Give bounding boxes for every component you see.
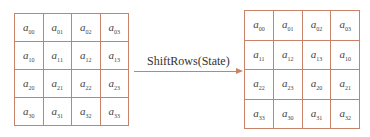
cell-index: 03 <box>114 29 120 35</box>
cell-index: 23 <box>287 85 293 91</box>
matrix-row: a20a21a22a23 <box>15 70 129 98</box>
cell-index: 03 <box>345 26 351 32</box>
matrix-cell: a33 <box>245 99 274 129</box>
matrix-cell: a02 <box>72 14 101 42</box>
cell-index: 11 <box>57 57 63 63</box>
cell-index: 10 <box>345 56 351 62</box>
cell-index: 30 <box>287 115 293 121</box>
matrix-row: a00a01a02a03 <box>245 11 360 41</box>
cell-index: 22 <box>86 85 92 91</box>
matrix-cell: a30 <box>15 98 44 126</box>
matrix-cell: a32 <box>72 98 101 126</box>
cell-index: 30 <box>29 113 35 119</box>
cell-index: 01 <box>287 26 293 32</box>
matrix-cell: a22 <box>245 70 274 100</box>
matrix-cell: a11 <box>245 40 274 70</box>
cell-index: 31 <box>316 115 322 121</box>
operation-label: ShiftRows(State) <box>147 54 230 69</box>
cell-index: 21 <box>345 85 351 91</box>
output-state-body: a00a01a02a03a11a12a13a10a22a23a20a21a33a… <box>245 11 360 129</box>
matrix-cell: a13 <box>302 40 331 70</box>
cell-index: 02 <box>86 29 92 35</box>
cell-index: 01 <box>57 29 63 35</box>
matrix-cell: a00 <box>15 14 44 42</box>
matrix-cell: a31 <box>302 99 331 129</box>
cell-index: 31 <box>57 113 63 119</box>
cell-index: 33 <box>114 113 120 119</box>
cell-index: 12 <box>287 56 293 62</box>
cell-index: 20 <box>29 85 35 91</box>
arrow-line <box>134 71 238 72</box>
cell-index: 13 <box>114 57 120 63</box>
matrix-cell: a03 <box>331 11 360 41</box>
cell-index: 00 <box>259 26 265 32</box>
matrix-cell: a32 <box>331 99 360 129</box>
matrix-cell: a30 <box>273 99 302 129</box>
cell-index: 23 <box>114 85 120 91</box>
matrix-cell: a01 <box>273 11 302 41</box>
matrix-cell: a21 <box>331 70 360 100</box>
matrix-cell: a22 <box>72 70 101 98</box>
matrix-cell: a10 <box>331 40 360 70</box>
output-state-matrix: a00a01a02a03a11a12a13a10a22a23a20a21a33a… <box>244 10 360 129</box>
matrix-cell: a21 <box>43 70 72 98</box>
matrix-row: a00a01a02a03 <box>15 14 129 42</box>
cell-index: 20 <box>316 85 322 91</box>
matrix-cell: a02 <box>302 11 331 41</box>
cell-index: 02 <box>316 26 322 32</box>
matrix-cell: a12 <box>273 40 302 70</box>
matrix-cell: a11 <box>43 42 72 70</box>
cell-index: 12 <box>86 57 92 63</box>
matrix-cell: a01 <box>43 14 72 42</box>
matrix-row: a30a31a32a33 <box>15 98 129 126</box>
cell-index: 21 <box>57 85 63 91</box>
cell-index: 00 <box>29 29 35 35</box>
matrix-cell: a23 <box>100 70 129 98</box>
input-state-body: a00a01a02a03a10a11a12a13a20a21a22a23a30a… <box>15 14 129 126</box>
matrix-cell: a31 <box>43 98 72 126</box>
input-state-matrix: a00a01a02a03a10a11a12a13a20a21a22a23a30a… <box>14 13 129 126</box>
matrix-cell: a13 <box>100 42 129 70</box>
matrix-cell: a00 <box>245 11 274 41</box>
matrix-cell: a03 <box>100 14 129 42</box>
cell-index: 11 <box>259 56 265 62</box>
matrix-cell: a20 <box>302 70 331 100</box>
arrow-head-icon <box>236 68 243 74</box>
cell-index: 32 <box>345 115 351 121</box>
cell-index: 13 <box>316 56 322 62</box>
matrix-cell: a23 <box>273 70 302 100</box>
matrix-cell: a12 <box>72 42 101 70</box>
matrix-row: a22a23a20a21 <box>245 70 360 100</box>
matrix-cell: a33 <box>100 98 129 126</box>
matrix-cell: a10 <box>15 42 44 70</box>
cell-index: 33 <box>259 115 265 121</box>
matrix-cell: a20 <box>15 70 44 98</box>
matrix-row: a10a11a12a13 <box>15 42 129 70</box>
matrix-row: a11a12a13a10 <box>245 40 360 70</box>
cell-index: 32 <box>86 113 92 119</box>
cell-index: 10 <box>29 57 35 63</box>
matrix-row: a33a30a31a32 <box>245 99 360 129</box>
cell-index: 22 <box>259 85 265 91</box>
